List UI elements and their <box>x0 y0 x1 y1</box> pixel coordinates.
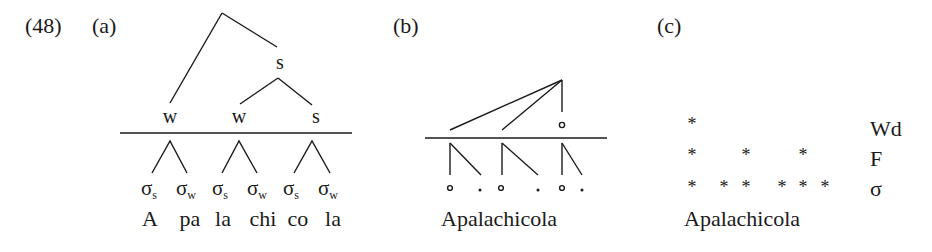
sigma-6: σw <box>318 176 338 202</box>
foot-3-tail-line <box>562 143 582 175</box>
row-label-f: F <box>870 146 882 171</box>
strong-syllable-marker <box>499 186 504 191</box>
grid-mark-sigma-1: * <box>688 177 697 197</box>
sigma-1: σs <box>141 176 157 202</box>
grid-mark-sigma-4: * <box>778 177 787 197</box>
sigma-4: σw <box>247 176 267 202</box>
panel-b-structure <box>425 80 607 190</box>
tree-branch-s-left <box>240 78 278 104</box>
tree-branch-s-right <box>278 78 312 105</box>
weak-syllable-marker <box>581 189 584 192</box>
grid-mark-f-1: * <box>688 145 697 165</box>
grid-mark-f-5: * <box>799 145 808 165</box>
syllable-4: chi <box>250 206 277 231</box>
tree-branch-root-right <box>222 13 277 47</box>
foot-label-1: w <box>163 105 178 127</box>
panel-c-label: (c) <box>657 13 681 38</box>
grid-mark-f-3: * <box>742 145 751 165</box>
sigma-2: σw <box>176 176 196 202</box>
panel-a-label: (a) <box>92 13 116 38</box>
foot-3-tail-line <box>502 143 538 175</box>
weak-syllable-marker <box>479 189 482 192</box>
grid-mark-wd-1: * <box>688 114 697 134</box>
row-label-wd: Wd <box>870 116 902 141</box>
strong-syllable-marker <box>448 186 453 191</box>
foot-branch-3 <box>294 141 330 173</box>
foot-branch-2 <box>222 141 257 173</box>
syllable-labels: σs σw σs σw σs σw <box>141 176 338 202</box>
syllable-5: co <box>288 206 309 231</box>
word-head-marker <box>559 122 564 127</box>
foot-1-tail-line <box>450 143 481 175</box>
grid-mark-sigma-5: * <box>799 177 808 197</box>
panel-a-tree <box>120 13 352 173</box>
root-s-label: s <box>276 51 284 73</box>
syllable-3: la <box>215 206 231 231</box>
syllable-6: la <box>325 206 341 231</box>
syllable-2: pa <box>180 206 201 231</box>
sigma-5: σs <box>283 176 299 202</box>
grid-mark-sigma-2: * <box>720 177 729 197</box>
row-label-sigma: σ <box>870 176 882 201</box>
syllable-text: A pa la chi co la <box>142 206 341 231</box>
foot-label-3: s <box>312 105 320 127</box>
panel-c-word: Apalachicola <box>684 206 800 231</box>
example-number: (48) <box>25 13 62 38</box>
strong-syllable-marker <box>560 186 565 191</box>
weak-syllable-markers <box>479 189 584 192</box>
tree-branch-root-left <box>170 13 222 103</box>
sigma-3: σs <box>212 176 228 202</box>
metrical-grid: * * * * * * * * * * <box>688 114 830 197</box>
weak-syllable-marker <box>537 189 540 192</box>
grid-mark-sigma-3: * <box>742 177 751 197</box>
word-branch-1 <box>450 80 562 130</box>
foot-branch-1 <box>152 141 187 173</box>
panel-b-label: (b) <box>393 13 419 38</box>
foot-label-2: w <box>232 105 247 127</box>
panel-b-word: Apalachicola <box>441 206 557 231</box>
word-branch-2 <box>502 80 562 130</box>
metrical-structure-figure: (48) (a) s w w s σs σw σs σw σs σw A pa … <box>0 0 932 252</box>
syllable-1: A <box>142 206 158 231</box>
grid-mark-sigma-6: * <box>821 177 830 197</box>
